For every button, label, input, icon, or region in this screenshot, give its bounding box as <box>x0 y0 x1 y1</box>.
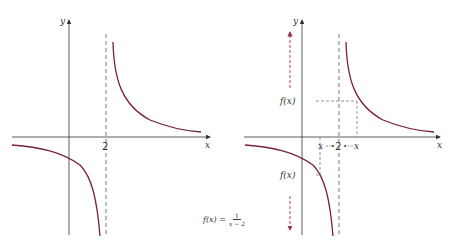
formula-lhs: f(x) = <box>203 215 226 224</box>
curve-left-branch <box>12 145 100 236</box>
left-graph <box>12 20 210 236</box>
lower-fx-label: f(x) <box>279 170 296 180</box>
asymptote-label-right: 2 <box>335 141 341 152</box>
x-label-right: x <box>437 140 442 150</box>
right-graph <box>244 20 440 236</box>
formula-denominator: x − 2 <box>229 220 245 227</box>
right-x-label: x <box>354 141 359 151</box>
y-label-right: y <box>292 16 299 26</box>
upper-fx-label: f(x) <box>279 96 296 106</box>
formula-numerator: 1 <box>233 212 241 220</box>
function-formula: f(x) = 1 x − 2 <box>203 212 245 227</box>
asymptote-label-left: 2 <box>102 141 108 152</box>
left-x-label: x <box>318 141 323 151</box>
y-label-left: y <box>59 16 66 26</box>
curve-right-branch <box>113 42 201 132</box>
x-label-left: x <box>205 140 210 150</box>
curve-right-branch <box>346 42 434 132</box>
formula-fraction: 1 x − 2 <box>229 212 245 227</box>
